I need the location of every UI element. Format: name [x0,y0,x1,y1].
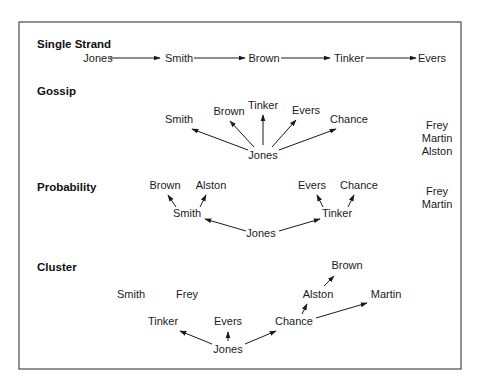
isolate-node-alston: Alston [422,145,453,157]
node-evers: Evers [298,179,327,191]
node-tinker: Tinker [148,315,178,327]
arrow-icon [168,195,176,207]
arrow-icon [200,195,206,207]
arrow-icon [279,129,336,150]
node-smith: Smith [165,52,193,64]
node-tinker: Tinker [248,99,278,111]
arrow-icon [279,219,320,231]
node-jones: Jones [248,149,278,161]
arrow-icon [205,219,246,231]
node-tinker: Tinker [334,52,364,64]
arrow-icon [316,303,367,318]
section-gossip: GossipSmithBrownTinkerEversChanceJonesFr… [37,85,452,161]
section-probability: ProbabilityBrownAlstonSmithEversChanceTi… [37,179,452,239]
section-title: Cluster [37,261,77,273]
node-alston: Alston [196,179,227,191]
node-brown: Brown [331,259,362,271]
node-evers: Evers [214,315,243,327]
arrow-icon [192,129,248,150]
isolate-node-frey: Frey [426,119,449,131]
section-title: Gossip [37,85,76,97]
node-brown: Brown [248,52,279,64]
isolate-node-martin: Martin [422,132,453,144]
section-cluster: ClusterSmithFreyBrownAlstonMartinTinkerE… [37,259,401,355]
diagram-sections: Single StrandJonesSmithBrownTinkerEversG… [37,38,452,355]
section-title: Probability [37,181,97,193]
node-martin: Martin [371,288,402,300]
node-brown: Brown [149,179,180,191]
arrow-icon [245,331,276,344]
node-evers: Evers [418,52,447,64]
node-tinker: Tinker [322,207,352,219]
arrow-icon [302,304,307,314]
node-smith: Smith [117,288,145,300]
node-chance: Chance [330,113,368,125]
node-jones: Jones [213,343,243,355]
node-chance: Chance [275,315,313,327]
arrow-icon [324,276,334,286]
node-alston: Alston [303,288,334,300]
isolate-node-martin: Martin [422,198,453,210]
node-smith: Smith [173,207,201,219]
arrow-icon [180,331,212,344]
node-brown: Brown [213,105,244,117]
node-chance: Chance [340,179,378,191]
section-single-strand: Single StrandJonesSmithBrownTinkerEvers [37,38,447,64]
arrow-icon [348,195,354,207]
node-jones: Jones [83,52,113,64]
node-smith: Smith [165,113,193,125]
arrow-icon [230,121,254,147]
node-jones: Jones [246,227,276,239]
arrow-icon [272,120,296,147]
arrow-icon [317,195,323,207]
isolate-node-frey: Frey [426,185,449,197]
node-evers: Evers [292,104,321,116]
network-diagram: Single StrandJonesSmithBrownTinkerEversG… [0,0,479,383]
node-frey: Frey [176,288,199,300]
section-title: Single Strand [37,38,111,50]
